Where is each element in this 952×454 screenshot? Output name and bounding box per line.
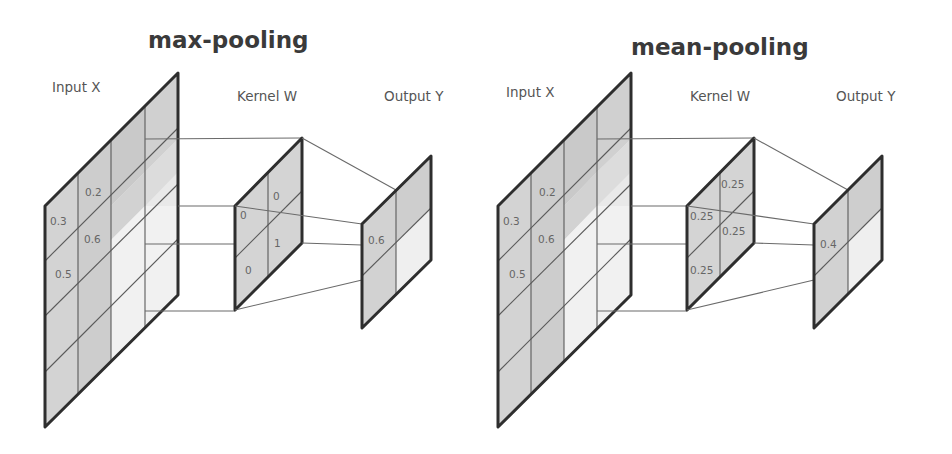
- max-input-value: 0.6: [84, 233, 101, 245]
- max-output-label: Output Y: [384, 88, 444, 104]
- mean-output-label: Output Y: [836, 88, 896, 104]
- mean-kernel-value: 0.25: [722, 225, 745, 237]
- pooling-diagram: max-pooling Input X Kernel W Output Y: [0, 0, 952, 454]
- max-kernel-value: 1: [274, 237, 281, 249]
- mean-pooling-title: mean-pooling: [631, 34, 809, 60]
- max-kernel-value: 0: [245, 264, 252, 276]
- max-kernel-grid: 0 0 1 0: [235, 138, 302, 310]
- mean-kernel-label: Kernel W: [690, 88, 750, 104]
- max-pooling-panel: max-pooling Input X Kernel W Output Y: [45, 27, 444, 427]
- max-output-value: 0.6: [368, 234, 385, 246]
- max-kernel-label: Kernel W: [237, 88, 297, 104]
- mean-pooling-panel: mean-pooling Input X Kernel W Output Y 0…: [498, 34, 896, 427]
- max-input-label: Input X: [52, 79, 101, 95]
- max-pooling-title: max-pooling: [148, 27, 309, 53]
- mean-output-value: 0.4: [820, 238, 837, 250]
- mean-input-grid: 0.2 0.3 0.6 0.5: [498, 73, 631, 427]
- mean-output-grid: 0.4: [814, 156, 882, 328]
- mean-input-value: 0.3: [503, 215, 520, 227]
- max-kernel-value: 0: [240, 209, 247, 221]
- max-input-value: 0.3: [50, 215, 67, 227]
- mean-input-value: 0.6: [538, 233, 555, 245]
- max-output-grid: 0.6: [362, 156, 431, 328]
- mean-input-label: Input X: [506, 84, 555, 100]
- mean-input-value: 0.5: [509, 268, 526, 280]
- mean-kernel-value: 0.25: [721, 178, 744, 190]
- mean-input-value: 0.2: [539, 186, 556, 198]
- mean-kernel-value: 0.25: [690, 210, 713, 222]
- max-input-grid: 0.2 0.3 0.6 0.5: [45, 73, 178, 427]
- mean-kernel-value: 0.25: [690, 264, 713, 276]
- max-kernel-value: 0: [273, 190, 280, 202]
- mean-kernel-grid: 0.25 0.25 0.25 0.25: [687, 138, 754, 310]
- max-input-value: 0.5: [55, 268, 72, 280]
- max-input-value: 0.2: [85, 186, 102, 198]
